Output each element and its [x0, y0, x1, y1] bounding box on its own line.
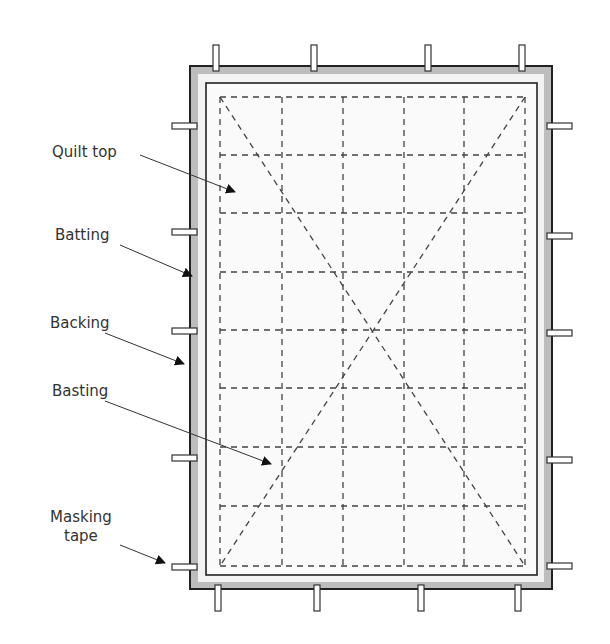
masking-tape-top — [425, 45, 431, 71]
masking-tape-left — [172, 564, 197, 570]
masking-tape-left — [172, 123, 197, 129]
arrow-batting — [120, 245, 192, 276]
masking-tape-top — [311, 45, 317, 71]
masking-tape-right — [547, 233, 572, 239]
label-masking-tape: Masking tape — [50, 508, 112, 546]
masking-tape-bottom — [515, 585, 521, 611]
masking-tape-left — [172, 455, 197, 461]
masking-tape-bottom — [215, 585, 221, 611]
masking-tape-right — [547, 330, 572, 336]
arrow-backing — [105, 333, 184, 364]
label-basting: Basting — [52, 382, 108, 401]
masking-tape-left — [172, 229, 197, 235]
masking-tape-right — [547, 123, 572, 129]
masking-tape-left — [172, 328, 197, 334]
masking-tape-top — [519, 45, 525, 71]
masking-tape-right — [547, 563, 572, 569]
label-masking-line2: tape — [50, 527, 112, 546]
masking-tape-right — [547, 457, 572, 463]
arrow-masking-tape — [120, 545, 165, 563]
label-batting: Batting — [55, 226, 109, 245]
label-quilt-top: Quilt top — [52, 143, 117, 162]
label-masking-line1: Masking — [50, 508, 112, 527]
masking-tape-bottom — [314, 585, 320, 611]
masking-tape-top — [213, 45, 219, 71]
label-backing: Backing — [50, 314, 110, 333]
masking-tape-bottom — [418, 585, 424, 611]
